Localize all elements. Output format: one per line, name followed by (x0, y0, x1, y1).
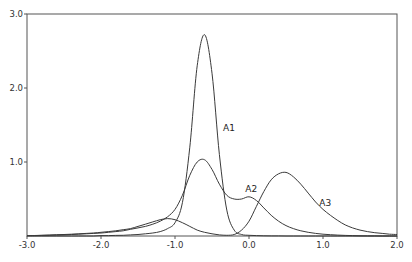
curve-a3 (27, 172, 397, 235)
data-curves (27, 35, 397, 236)
plot-border (27, 14, 397, 236)
curve-a1 (27, 35, 397, 236)
y-axis-ticks: 1.02.03.0 (9, 9, 27, 167)
y-tick-label: 3.0 (9, 9, 23, 19)
label-a1: A1 (223, 123, 235, 133)
x-tick-label: -2.0 (93, 240, 110, 250)
y-tick-label: 1.0 (9, 157, 23, 167)
y-tick-label: 2.0 (9, 83, 23, 93)
x-tick-label: -1.0 (167, 240, 184, 250)
x-tick-label: 2.0 (390, 240, 404, 250)
x-tick-label: -3.0 (19, 240, 36, 250)
curve-a2 (27, 159, 397, 236)
curve-labels: A1A2A3 (223, 123, 331, 208)
x-tick-label: 1.0 (316, 240, 330, 250)
plot-frame (27, 14, 397, 236)
label-a2: A2 (245, 184, 257, 194)
label-a3: A3 (319, 198, 331, 208)
x-tick-label: 0.0 (242, 240, 256, 250)
line-chart: 1.02.03.0 -3.0-2.0-1.00.01.02.0 A1A2A3 (0, 0, 412, 262)
x-axis-ticks: -3.0-2.0-1.00.01.02.0 (19, 236, 404, 250)
